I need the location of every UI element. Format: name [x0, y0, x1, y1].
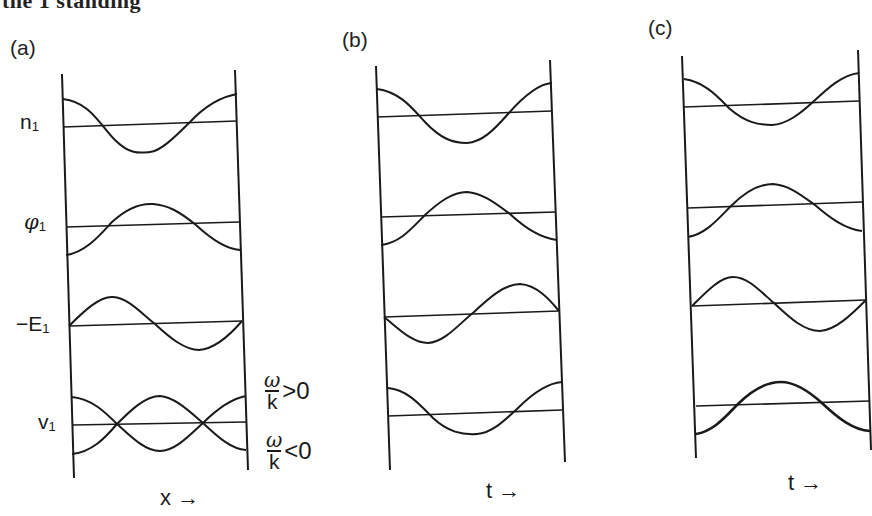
e1-wave-b [384, 284, 559, 343]
panel-c-right-boundary [858, 50, 871, 450]
panel-a-right-boundary [235, 70, 248, 470]
phi1-baseline-c [688, 202, 862, 208]
n1-wave-c [684, 73, 859, 125]
panel-b-right-boundary [550, 60, 565, 462]
v1-baseline-b [388, 410, 562, 416]
panel-c [682, 50, 871, 458]
v1-baseline [72, 422, 246, 425]
e1-wave-a [69, 297, 242, 350]
panel-b-left-boundary [376, 66, 390, 470]
panel-a [62, 70, 248, 478]
e1-baseline-c [692, 300, 866, 306]
panel-b [376, 60, 565, 470]
n1-baseline-c [684, 101, 859, 107]
phi1-baseline [66, 222, 239, 227]
v1-baseline-c [696, 401, 870, 406]
wave-diagram [0, 0, 872, 516]
phi1-wave-c [688, 184, 862, 237]
v1-wave-b [388, 382, 562, 434]
e1-wave-c [692, 277, 866, 331]
n1-baseline [63, 121, 237, 127]
phi1-baseline-b [381, 212, 556, 217]
n1-wave-b [377, 83, 552, 143]
phi1-wave-b [381, 192, 557, 245]
v1-wave-c [696, 382, 870, 434]
panel-c-left-boundary [682, 56, 696, 458]
panel-a-left-boundary [62, 74, 74, 478]
phi1-wave-a [66, 204, 240, 255]
n1-baseline-b [377, 111, 552, 117]
